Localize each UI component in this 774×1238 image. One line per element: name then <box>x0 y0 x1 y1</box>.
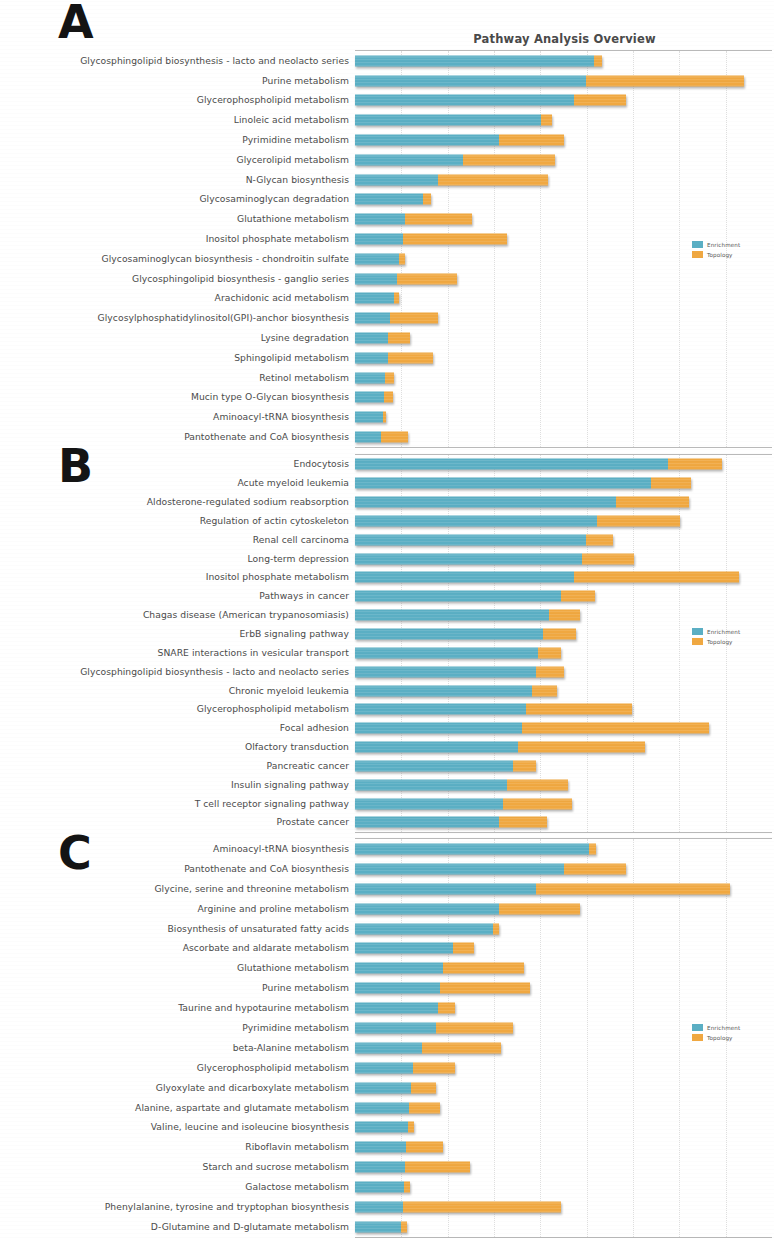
bar-segment-enrichment <box>355 515 597 526</box>
stacked-bar <box>355 1062 455 1073</box>
bar-segment-enrichment <box>355 293 394 304</box>
category-label: Ascorbate and aldarate metabolism <box>183 943 349 953</box>
category-label: Glyoxylate and dicarboxylate metabolism <box>156 1083 349 1093</box>
bar-segment-topology <box>532 685 557 696</box>
bar-segment-topology <box>390 313 438 324</box>
chart-row: Glycerolipid metabolism <box>355 150 772 170</box>
bar-segment-topology <box>522 723 710 734</box>
stacked-bar <box>355 843 596 854</box>
chart-row: Mucin type O-Glycan biosynthesis <box>355 388 772 408</box>
chart-row: Aminoacyl-tRNA biosynthesis <box>355 407 772 427</box>
chart-row: Regulation of actin cytoskeleton <box>355 512 772 531</box>
bar-segment-topology <box>493 923 499 934</box>
legend-entry-enrichment: Enrichment <box>692 1024 740 1031</box>
category-label: Pathways in cancer <box>259 591 349 601</box>
stacked-bar <box>355 760 536 771</box>
stacked-bar <box>355 553 634 564</box>
stacked-bar <box>355 392 393 403</box>
chart-row: Aminoacyl-tRNA biosynthesis <box>355 839 772 859</box>
bar-segment-topology <box>384 392 393 403</box>
category-label: Retinol metabolism <box>259 373 349 383</box>
pathway-analysis-figure: A Pathway Analysis Overview Glycosphingo… <box>0 0 774 1238</box>
bar-segment-topology <box>388 333 410 344</box>
chart-row: Pathways in cancer <box>355 587 772 606</box>
bar-segment-topology <box>651 478 691 489</box>
bar-segment-enrichment <box>355 478 651 489</box>
stacked-bar <box>355 1003 455 1014</box>
stacked-bar <box>355 313 438 324</box>
bar-segment-topology <box>436 1022 513 1033</box>
bar-segment-topology <box>381 432 408 443</box>
category-label: Glycosylphosphatidylinositol(GPI)-anchor… <box>98 313 349 323</box>
category-label: Chagas disease (American trypanosomiasis… <box>143 610 349 620</box>
bar-segment-topology <box>586 75 744 86</box>
chart-row: Focal adhesion <box>355 719 772 738</box>
legend-swatch-enrichment-icon <box>692 241 703 248</box>
bar-segment-enrichment <box>355 333 388 344</box>
stacked-bar <box>355 779 568 790</box>
category-label: Mucin type O-Glycan biosynthesis <box>191 392 349 402</box>
bar-segment-enrichment <box>355 943 453 954</box>
category-label: Pyrimidine metabolism <box>242 135 349 145</box>
chart-row: Arginine and proline metabolism <box>355 899 772 919</box>
bar-segment-topology <box>526 704 632 715</box>
stacked-bar <box>355 174 548 185</box>
category-label: Biosynthesis of unsaturated fatty acids <box>167 924 349 934</box>
chart-row: Glycosphingolipid biosynthesis - ganglio… <box>355 269 772 289</box>
bar-segment-topology <box>518 742 645 753</box>
bar-segment-topology <box>406 1142 444 1153</box>
stacked-bar <box>355 817 547 828</box>
bar-segment-enrichment <box>355 647 538 658</box>
stacked-bar <box>355 253 405 264</box>
category-label: Riboflavin metabolism <box>245 1142 349 1152</box>
bar-segment-enrichment <box>355 723 522 734</box>
category-label: Glycerophospholipid metabolism <box>197 95 349 105</box>
bar-segment-topology <box>541 115 553 126</box>
bar-segment-topology <box>564 863 627 874</box>
bar-segment-enrichment <box>355 392 384 403</box>
bar-segment-topology <box>538 647 561 658</box>
stacked-bar <box>355 194 431 205</box>
category-label: Pantothenate and CoA biosynthesis <box>184 864 349 874</box>
bar-segment-topology <box>413 1062 455 1073</box>
bar-segment-topology <box>543 629 576 640</box>
category-label: Long-term depression <box>248 554 349 564</box>
category-label: Glycine, serine and threonine metabolism <box>154 884 349 894</box>
stacked-bar <box>355 742 645 753</box>
bar-segment-topology <box>385 372 393 383</box>
bar-segment-topology <box>594 55 602 66</box>
legend-entry-topology: Topology <box>692 251 740 258</box>
bar-segment-enrichment <box>355 459 668 470</box>
stacked-bar <box>355 478 691 489</box>
stacked-bar <box>355 95 626 106</box>
legend-swatch-topology-icon <box>692 251 703 258</box>
legend-swatch-enrichment-icon <box>692 1024 703 1031</box>
legend-label-enrichment: Enrichment <box>707 629 740 635</box>
chart-row: Arachidonic acid metabolism <box>355 289 772 309</box>
bar-segment-topology <box>405 1162 470 1173</box>
category-label: SNARE interactions in vesicular transpor… <box>158 648 349 658</box>
bar-segment-topology <box>499 817 547 828</box>
panel-b-letter: B <box>58 446 92 486</box>
stacked-bar <box>355 1022 513 1033</box>
bar-segment-topology <box>536 883 730 894</box>
stacked-bar <box>355 572 739 583</box>
panel-c-legend: Enrichment Topology <box>692 1024 740 1041</box>
bar-segment-topology <box>582 553 634 564</box>
stacked-bar <box>355 154 555 165</box>
bar-segment-enrichment <box>355 1221 401 1232</box>
bar-segment-enrichment <box>355 1182 404 1193</box>
bar-segment-topology <box>388 352 434 363</box>
bar-segment-enrichment <box>355 798 503 809</box>
category-label: Glycosphingolipid biosynthesis - lacto a… <box>80 56 349 66</box>
chart-row: Taurine and hypotaurine metabolism <box>355 998 772 1018</box>
bar-segment-topology <box>453 943 474 954</box>
stacked-bar <box>355 629 576 640</box>
bar-segment-enrichment <box>355 553 582 564</box>
stacked-bar <box>355 883 730 894</box>
legend-swatch-topology-icon <box>692 638 703 645</box>
panel-b: B EndocytosisAcute myeloid leukemiaAldos… <box>0 448 774 833</box>
bar-segment-enrichment <box>355 234 403 245</box>
category-label: Pyrimidine metabolism <box>242 1023 349 1033</box>
category-label: T cell receptor signaling pathway <box>195 799 349 809</box>
